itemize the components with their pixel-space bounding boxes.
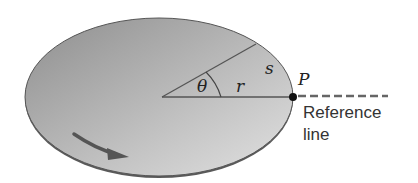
point-p-marker xyxy=(289,93,297,101)
reference-line-label: Reference xyxy=(303,103,381,122)
reference-line-label-2: line xyxy=(303,125,329,144)
radius-label: r xyxy=(236,76,245,96)
point-p-label: P xyxy=(297,69,310,89)
theta-label: θ xyxy=(197,76,207,96)
rotating-disk-diagram: θ r s P Reference line xyxy=(0,0,418,183)
arc-length-label: s xyxy=(265,58,274,78)
